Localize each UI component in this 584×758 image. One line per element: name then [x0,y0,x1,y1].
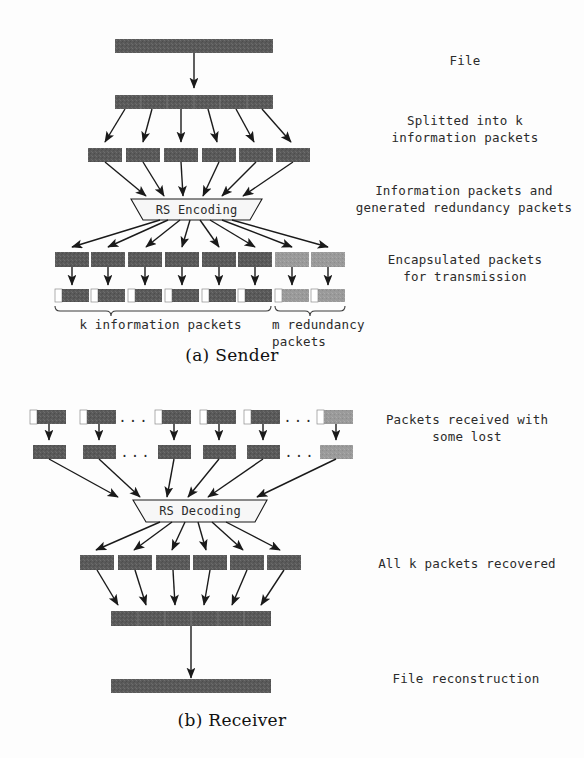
arrows-packets-to-encoder [105,162,293,196]
figure-canvas: File Splitted into k information packets… [0,0,584,758]
ellipsis-payload-2: ... [283,444,317,461]
label-reconstruction: File reconstruction [356,670,576,687]
label-encoded: Information packets and generated redund… [348,182,580,216]
brace-label-information-packets: k information packets [48,316,273,333]
arrows-decapsulation [49,424,336,440]
label-encapsulated: Encapsulated packets for transmission [360,251,570,285]
receiver-recovered-packets-row [80,555,301,570]
ellipsis-payload-1: ... [119,444,153,461]
ellipsis-received-2: ... [282,409,316,426]
sender-information-packets-row [88,148,310,162]
arrows-decoder-to-recovered [96,522,280,550]
label-recovered: All k packets recovered [352,555,582,572]
label-received: Packets received with some lost [360,411,574,445]
sender-file-bar [115,39,273,53]
receiver-assembled-bar [111,611,271,626]
caption-sender: (a) Sender [152,345,312,365]
brace-information-packets [55,306,271,316]
label-split: Splitted into k information packets [360,112,570,146]
ellipsis-received-1: ... [117,409,151,426]
arrows-encoder-to-encapsulated [72,220,328,247]
rs-decoding-label: RS Decoding [133,503,267,520]
sender-encapsulated-packets-row [55,289,345,302]
arrows-split-to-packets [105,109,291,142]
caption-receiver: (b) Receiver [146,710,318,730]
rs-encoding-label: RS Encoding [131,202,262,219]
sender-encapsulated-source-row [55,252,345,267]
brace-redundancy-packets [275,306,345,316]
receiver-file-bar [111,679,271,693]
sender-split-bar [115,95,273,109]
arrows-payload-to-decoder [49,459,336,497]
arrows-recovered-to-assembled [97,570,284,605]
arrows-encapsulation [72,267,328,285]
label-file: File [360,52,570,69]
